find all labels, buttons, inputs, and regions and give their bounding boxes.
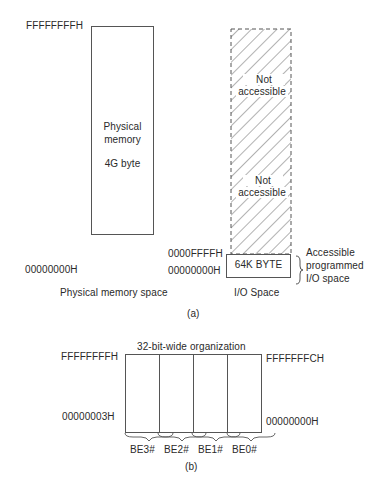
accessible-io-note-line1: Accessible	[306, 247, 355, 258]
io-64k-label: 64K BYTE	[226, 259, 291, 270]
part-b-caption: (b)	[185, 461, 198, 472]
part-b-title: 32-bit-wide organization	[137, 341, 246, 352]
byte-lane-1	[193, 354, 228, 433]
byte-enable-label-be1: BE1#	[193, 444, 228, 455]
not-accessible-label-2a: Not	[243, 175, 283, 186]
accessible-io-note-line3: I/O space	[306, 273, 350, 284]
byte-lane-0	[227, 354, 262, 433]
part-b-top-right-address: FFFFFFFCH	[266, 353, 324, 364]
part-a-caption: (a)	[187, 308, 200, 319]
byte-enable-label-be2: BE2#	[159, 444, 194, 455]
byte-enable-label-be0: BE0#	[227, 444, 262, 455]
not-accessible-label-1b: accessible	[236, 86, 288, 97]
io-space-caption: I/O Space	[234, 287, 279, 298]
io-top-address: 0000FFFFH	[168, 248, 223, 259]
part-b-bottom-right-address: 00000000H	[266, 416, 319, 427]
byte-lane-2	[159, 354, 194, 433]
byte-enable-label-be3: BE3#	[125, 444, 160, 455]
not-accessible-label-1a: Not	[243, 74, 285, 85]
accessible-io-note-line2: programmed	[306, 260, 364, 271]
byte-lane-3	[125, 354, 160, 433]
part-b-bottom-left-address: 00000003H	[62, 411, 115, 422]
io-bottom-address: 00000000H	[168, 265, 221, 276]
not-accessible-label-2b: accessible	[236, 187, 288, 198]
part-b-top-left-address: FFFFFFFFH	[61, 351, 118, 362]
